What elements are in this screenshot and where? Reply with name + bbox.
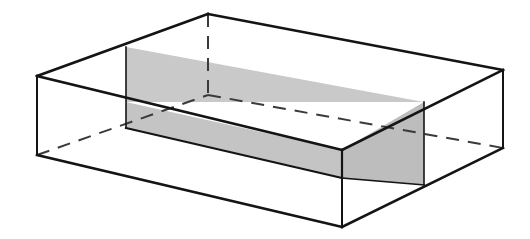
figure-container <box>0 0 530 239</box>
box-cross-section-diagram <box>0 0 530 239</box>
diagram-background <box>0 0 530 239</box>
